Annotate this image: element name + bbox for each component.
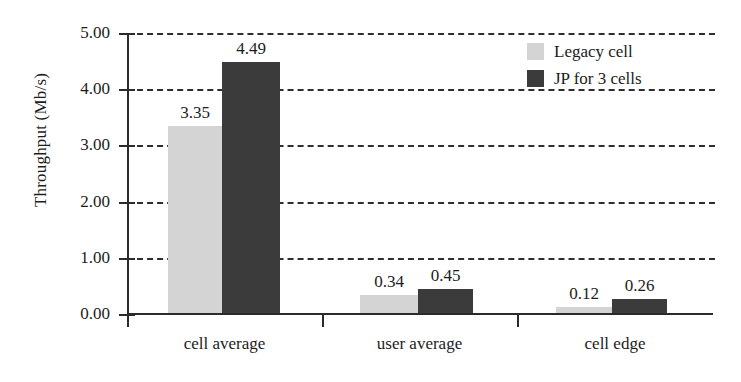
legend-item-jp-for-3-cells: JP for 3 cells [527,65,717,92]
bar-value-label: 0.26 [604,276,675,295]
bar-value-label: 0.45 [410,266,481,285]
y-axis-tick-label-text: 5.00 [50,24,110,41]
bar-value-label: 4.49 [214,39,288,58]
x-axis-tick-mark [322,313,324,327]
legend-swatch-icon-legacy-cell [527,43,544,60]
y-axis-tick-label: 4.00 [50,80,110,98]
x-axis-tick-mark [517,313,519,327]
y-axis-tick-label: 2.00 [50,193,110,211]
bar [360,295,418,314]
bar-chart: Throughput (Mb/s) 5.004.003.002.001.000.… [0,0,741,382]
y-axis-tick-label-text: 1.00 [50,249,110,266]
y-axis-tick-label: 0.00 [50,305,110,323]
x-axis-category-label: user average [322,333,517,355]
x-axis-category-label: cell average [127,333,322,355]
legend-swatch-icon-jp-for-3-cells [527,70,544,87]
y-axis-tick-label-text: 0.00 [50,305,110,322]
legend: Legacy cell JP for 3 cells [527,38,717,92]
legend-label-legacy-cell: Legacy cell [554,42,633,61]
gridline [127,33,715,35]
y-axis-tick-label: 1.00 [50,249,110,267]
bar [612,299,667,314]
y-axis-tick-label-text: 2.00 [50,193,110,210]
y-axis-line [127,33,129,314]
bar [222,62,280,314]
bar [418,289,473,314]
legend-item-legacy-cell: Legacy cell [527,38,717,65]
y-axis-tick-label-text: 4.00 [50,80,110,97]
y-axis-tick-label-text: 3.00 [50,136,110,153]
y-axis-tick-label: 5.00 [50,24,110,42]
y-axis-tick-label: 3.00 [50,136,110,154]
x-axis-category-label: cell edge [517,333,713,355]
legend-label-jp-for-3-cells: JP for 3 cells [554,69,642,88]
bar-value-label: 3.35 [160,103,230,122]
bar [168,126,222,314]
x-axis-line [127,313,713,315]
x-axis-tick-mark [127,313,129,327]
